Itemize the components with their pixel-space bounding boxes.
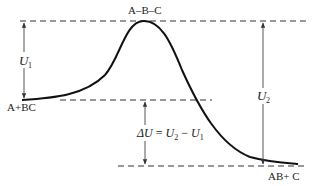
delta-u-equation: ΔU = U2 − U1 — [136, 125, 210, 142]
svg-text:1: 1 — [28, 61, 32, 70]
u2-label: U 2 — [255, 88, 271, 105]
reactants-label: A+BC — [7, 101, 36, 113]
svg-text:2: 2 — [266, 96, 270, 105]
svg-text:ΔU = U2 − U1: ΔU = U2 − U1 — [136, 126, 204, 142]
transition-state-label: A–B–C — [128, 4, 162, 16]
energy-diagram: A–B–C A+BC AB+ C U 1 U 2 ΔU = U2 − U1 — [0, 0, 312, 186]
products-label: AB+ C — [268, 170, 300, 182]
u1-label: U 1 — [16, 52, 32, 70]
